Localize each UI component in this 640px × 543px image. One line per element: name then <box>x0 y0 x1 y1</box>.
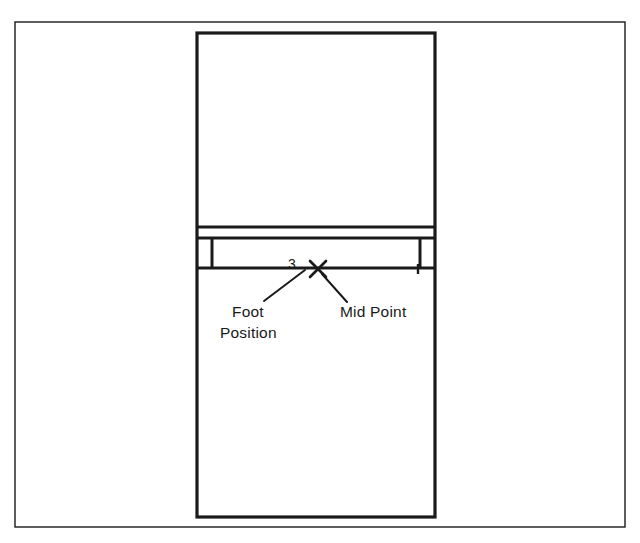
technical-line-drawing: 3 Foot Position Mid Point <box>0 0 640 543</box>
foot-position-label-line1: Foot <box>232 303 264 320</box>
foot-position-label-line2: Position <box>220 324 277 341</box>
mid-point-label: Mid Point <box>340 303 407 320</box>
diagram-canvas: 3 Foot Position Mid Point <box>0 0 640 543</box>
dimension-label-3: 3 <box>288 256 296 272</box>
